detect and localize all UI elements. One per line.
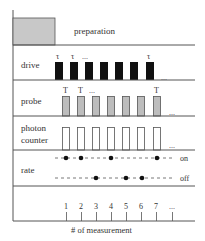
axis-title: # of measurement (71, 225, 133, 235)
rate-dot-1-on (64, 156, 69, 161)
photon-counter-label-line1: photon (21, 123, 47, 133)
probe-T-1: T (63, 86, 68, 95)
rate-dot-5-off (124, 176, 129, 181)
rate-dots (64, 156, 160, 181)
preparation-label: preparation (74, 26, 115, 36)
rate-on-label: on (180, 154, 188, 163)
drive-tau-last: τ (147, 52, 151, 61)
rate-dot-6-off (140, 176, 145, 181)
drive-pulses (55, 62, 154, 80)
drive-tau-2: τ (71, 52, 75, 61)
tick-label-5: 5 (124, 202, 128, 211)
rate-dot-7-on (155, 156, 160, 161)
tick-label-2: 2 (79, 202, 83, 211)
drive-ellipsis: ... (161, 73, 167, 82)
rate-dot-4-on (109, 156, 114, 161)
tick-label-6: 6 (139, 202, 143, 211)
tick-label-1: 1 (64, 202, 68, 211)
photon-counter-windows (63, 128, 161, 151)
drive-tau-1: τ (56, 52, 60, 61)
tick-label-4: 4 (109, 202, 113, 211)
tick-label-ellipsis: ... (169, 202, 175, 211)
probe-pulses (63, 97, 161, 117)
measurement-sequence-diagram: preparation drive τ τ ... τ ... probe T … (0, 0, 205, 241)
tick-label-3: 3 (94, 202, 98, 211)
rate-dot-3-off (94, 176, 99, 181)
drive-tau-ellipsis: ... (82, 52, 88, 61)
rate-dot-2-on (79, 156, 84, 161)
probe-T-2: T (78, 86, 83, 95)
preparation-block (13, 18, 55, 45)
probe-T-ellipsis: ... (89, 86, 95, 95)
drive-label: drive (21, 60, 40, 70)
probe-T-last: T (154, 86, 159, 95)
photon-counter-ellipsis: ... (169, 141, 175, 150)
rate-off-label: off (180, 174, 190, 183)
rate-label: rate (21, 165, 35, 175)
probe-label: probe (21, 96, 42, 106)
tick-label-7: 7 (154, 202, 158, 211)
measurement-ticks (67, 212, 173, 221)
photon-counter-label-line2: counter (21, 135, 48, 145)
